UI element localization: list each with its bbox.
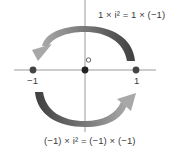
top-rotation-arrow — [32, 26, 135, 61]
origin-point — [82, 67, 89, 74]
neg-one-point — [30, 67, 37, 74]
pos-one-point — [133, 67, 140, 74]
origin-marker-icon — [86, 58, 90, 62]
neg-one-label: −1 — [27, 75, 38, 86]
pos-one-label: 1 — [134, 75, 139, 86]
bottom-equation: (−1) × i² = (−1) × (−1) — [44, 135, 136, 146]
top-equation: 1 × i² = 1 × (−1) — [98, 9, 165, 20]
